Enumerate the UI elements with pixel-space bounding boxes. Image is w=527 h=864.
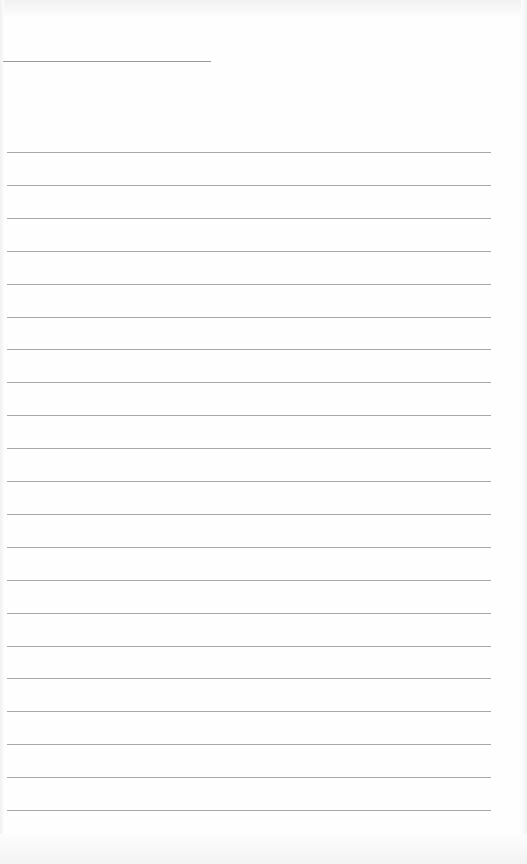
ruled-line <box>7 481 491 482</box>
ruled-line <box>7 317 491 318</box>
top-shadow <box>0 0 527 16</box>
ruled-line <box>7 152 491 153</box>
ruled-line <box>7 777 491 778</box>
name-line <box>3 61 211 62</box>
bottom-shadow <box>0 834 527 864</box>
ruled-line <box>7 613 491 614</box>
ruled-line <box>7 185 491 186</box>
ruled-line <box>7 678 491 679</box>
ruled-line <box>7 744 491 745</box>
ruled-line <box>7 218 491 219</box>
ruled-line <box>7 448 491 449</box>
ruled-line <box>7 646 491 647</box>
ruled-line <box>7 251 491 252</box>
right-edge-shadow <box>521 0 527 864</box>
ruled-line <box>7 547 491 548</box>
ruled-line <box>7 711 491 712</box>
left-edge-shadow <box>0 0 4 864</box>
ruled-line <box>7 415 491 416</box>
ruled-line <box>7 810 491 811</box>
lined-paper-sheet <box>0 0 527 864</box>
ruled-line <box>7 514 491 515</box>
ruled-line <box>7 382 491 383</box>
ruled-line <box>7 580 491 581</box>
ruled-line <box>7 349 491 350</box>
ruled-line <box>7 284 491 285</box>
